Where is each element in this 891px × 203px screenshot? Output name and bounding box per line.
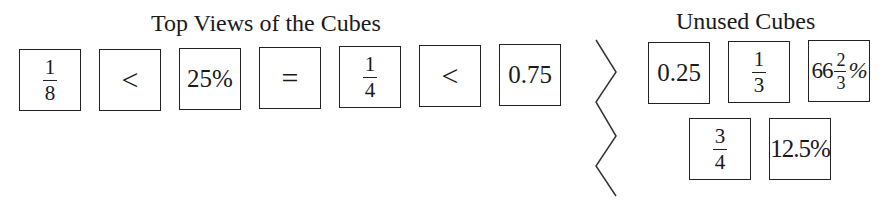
cube-less-than-2: < (419, 45, 481, 107)
cube-66-two-thirds-percent: 66 23 % (808, 40, 870, 102)
zigzag-divider-icon (590, 38, 630, 198)
numerator: 3 (713, 126, 728, 150)
denominator: 3 (836, 72, 844, 92)
fraction: 14 (363, 54, 378, 101)
cube-0-75: 0.75 (499, 44, 561, 106)
top-views-title: Top Views of the Cubes (151, 10, 381, 37)
cube-one-eighth: 18 (19, 49, 81, 111)
less-than-symbol: < (122, 63, 139, 97)
cube-value: 0.25 (657, 59, 701, 87)
cube-value: 0.75 (508, 61, 552, 89)
fraction: 13 (752, 49, 767, 96)
numerator: 1 (363, 54, 378, 78)
denominator: 3 (754, 73, 765, 96)
cube-0-25: 0.25 (648, 42, 710, 104)
numerator: 1 (752, 49, 767, 73)
cube-equals: = (259, 47, 321, 109)
cube-less-than: < (99, 49, 161, 111)
cube-three-quarters: 34 (689, 118, 751, 180)
fraction: 34 (713, 126, 728, 173)
numerator: 2 (834, 51, 846, 72)
denominator: 4 (365, 78, 376, 101)
cube-12-5-percent: 12.5% (769, 118, 831, 180)
denominator: 8 (45, 81, 56, 104)
whole-part: 66 (811, 58, 832, 84)
fraction: 18 (43, 57, 58, 104)
percent-sign: % (848, 58, 866, 84)
unused-cubes-title: Unused Cubes (676, 8, 815, 35)
cube-value: 12.5% (770, 135, 830, 163)
less-than-symbol: < (442, 59, 459, 93)
denominator: 4 (715, 150, 726, 173)
cube-value: 25% (187, 65, 233, 93)
cube-one-third: 13 (728, 41, 790, 103)
equals-symbol: = (282, 61, 299, 95)
fraction: 23 (834, 51, 846, 92)
numerator: 1 (43, 57, 58, 81)
cube-25-percent: 25% (179, 48, 241, 110)
mixed-number: 66 23 % (811, 51, 866, 92)
cube-one-quarter: 14 (339, 46, 401, 108)
